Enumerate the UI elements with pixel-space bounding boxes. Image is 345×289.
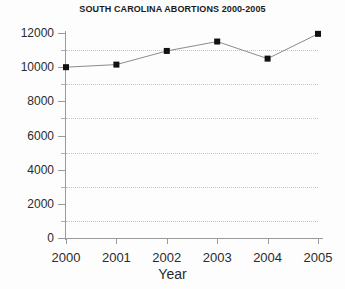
- x-axis-tick-label: 2002: [139, 250, 195, 265]
- y-axis-minor-tick: [61, 50, 65, 51]
- y-axis-tick: [58, 33, 65, 34]
- x-axis-tick: [268, 238, 269, 244]
- x-axis-tick-label: 2000: [38, 250, 94, 265]
- x-axis-tick: [217, 238, 218, 244]
- y-axis-tick: [58, 170, 65, 171]
- y-axis-minor-tick: [61, 153, 65, 154]
- x-axis-tick-label: 2001: [88, 250, 144, 265]
- y-axis-tick: [58, 204, 65, 205]
- gridline: [66, 221, 318, 222]
- y-axis-tick-label: 4000: [0, 164, 54, 176]
- chart-container: SOUTH CAROLINA ABORTIONS 2000-2005 02000…: [0, 0, 345, 289]
- y-axis-minor-tick: [61, 221, 65, 222]
- y-axis-tick: [58, 101, 65, 102]
- y-axis-tick-label: 6000: [0, 130, 54, 142]
- y-axis-tick-label: 0: [0, 232, 54, 244]
- gridline: [66, 153, 318, 154]
- y-axis-minor-tick: [61, 118, 65, 119]
- gridline: [66, 118, 318, 119]
- gridline: [66, 50, 318, 51]
- y-axis-tick-label: 12000: [0, 27, 54, 39]
- x-axis-tick-label: 2004: [240, 250, 296, 265]
- gridline: [66, 187, 318, 188]
- y-axis-tick: [58, 67, 65, 68]
- y-axis-tick: [58, 136, 65, 137]
- y-axis-tick-label: 8000: [0, 95, 54, 107]
- x-axis-tick: [318, 238, 319, 244]
- x-axis-tick-label: 2003: [189, 250, 245, 265]
- x-axis-tick: [66, 238, 67, 244]
- x-axis-tick: [116, 238, 117, 244]
- y-axis-tick: [58, 238, 65, 239]
- gridline: [66, 84, 318, 85]
- plot-area: [66, 33, 318, 238]
- x-axis-tick-label: 2005: [290, 250, 345, 265]
- x-axis-line: [65, 238, 323, 239]
- y-axis-tick-label: 10000: [0, 61, 54, 73]
- y-axis-tick-label: 2000: [0, 198, 54, 210]
- y-axis-line: [65, 31, 66, 240]
- x-axis-tick: [167, 238, 168, 244]
- chart-title: SOUTH CAROLINA ABORTIONS 2000-2005: [0, 4, 345, 14]
- y-axis-minor-tick: [61, 84, 65, 85]
- x-axis-title: Year: [0, 266, 345, 282]
- y-axis-minor-tick: [61, 187, 65, 188]
